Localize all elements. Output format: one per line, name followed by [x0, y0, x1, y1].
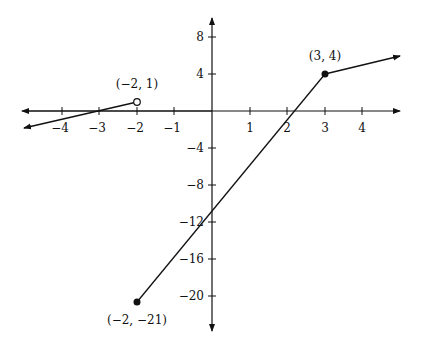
svg-text:−4: −4 [51, 121, 69, 135]
piecewise-graph: −4 −3 −2 −1 1 2 3 4 8 4 −4 −8 −12 −16 −2… [0, 0, 421, 347]
svg-text:8: 8 [196, 30, 204, 44]
svg-text:−12: −12 [179, 215, 204, 229]
svg-text:−4: −4 [186, 141, 204, 155]
y-tick-labels: 8 4 −4 −8 −12 −16 −20 [179, 30, 205, 303]
point-label: (−2, −21) [107, 313, 167, 327]
x-tick-labels: −4 −3 −2 −1 1 2 3 4 [51, 121, 366, 135]
closed-point [322, 71, 329, 78]
svg-text:−20: −20 [179, 289, 204, 303]
svg-text:1: 1 [246, 121, 254, 135]
svg-text:3: 3 [321, 121, 329, 135]
svg-text:−1: −1 [163, 121, 181, 135]
middle-segment [137, 74, 325, 302]
svg-text:−2: −2 [126, 121, 144, 135]
svg-text:4: 4 [196, 67, 204, 81]
point-label: (3, 4) [309, 49, 341, 63]
svg-text:−3: −3 [88, 121, 106, 135]
open-point [134, 99, 141, 106]
svg-text:4: 4 [358, 121, 366, 135]
closed-point [134, 299, 141, 306]
point-label: (−2, 1) [116, 77, 158, 91]
svg-text:−16: −16 [179, 252, 204, 266]
svg-text:−8: −8 [186, 178, 204, 192]
left-ray [24, 102, 137, 128]
